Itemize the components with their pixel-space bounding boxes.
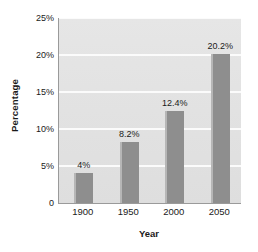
y-axis-tick-label: 10% [26,125,54,134]
y-axis-tick-label: 0 [26,199,54,208]
bar-value-label: 8.2% [119,130,140,139]
x-axis-tick-label: 2000 [163,206,184,218]
x-axis-title: Year [58,228,240,239]
y-axis-tick-label: 20% [26,51,54,60]
bar-value-label: 4% [77,161,90,170]
y-axis-tick-label: 15% [26,88,54,97]
x-axis-tick-label: 1950 [118,206,139,218]
x-axis-tick-labels: 1900195020002050 [58,206,240,222]
bar-chart-figure: Percentage 05%10%15%20%25% 4%8.2%12.4%20… [0,0,258,252]
y-axis-tick-labels: 05%10%15%20%25% [26,18,54,203]
bar [120,142,139,203]
bar [211,54,230,203]
y-axis-title-text: Percentage [10,78,21,131]
y-axis-title: Percentage [4,0,26,210]
gridline [59,18,241,19]
bar-value-label: 12.4% [162,99,188,108]
x-axis-tick-label: 1900 [72,206,93,218]
bar [74,173,93,203]
x-axis-line [58,203,241,204]
bar-value-label: 20.2% [207,42,233,51]
bar [165,111,184,203]
x-axis-tick-label: 2050 [209,206,230,218]
y-axis-tick-label: 25% [26,14,54,23]
plot-area: 4%8.2%12.4%20.2% [58,18,241,203]
y-axis-tick-label: 5% [26,162,54,171]
